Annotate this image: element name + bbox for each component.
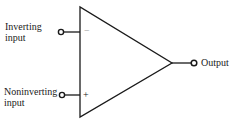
inverting-label-line2: input — [5, 32, 42, 43]
minus-sign: − — [84, 25, 90, 36]
noninverting-label-line1: Noninverting — [4, 86, 57, 97]
noninverting-input-label: Noninverting input — [4, 86, 57, 108]
noninverting-label-line2: input — [4, 97, 57, 108]
noninverting-input-terminal — [59, 92, 80, 97]
output-terminal — [172, 60, 197, 66]
op-amp-diagram: Inverting input − Noninverting input + O… — [0, 0, 251, 124]
amplifier-triangle — [80, 7, 172, 117]
output-label: Output — [201, 57, 229, 68]
plus-sign: + — [83, 89, 89, 100]
inverting-input-label: Inverting input — [5, 21, 42, 43]
inverting-input-terminal — [58, 29, 80, 34]
inverting-label-line1: Inverting — [5, 21, 42, 32]
